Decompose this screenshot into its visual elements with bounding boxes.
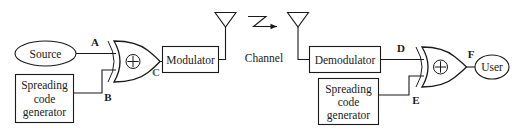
- rx-spreading-code-generator: Spreading code generator: [319, 79, 379, 125]
- node-label-c: C: [152, 66, 160, 78]
- rx-antenna-triangle: [288, 13, 309, 28]
- rx-xor-gate: [416, 47, 467, 87]
- rx-spreading-label-line2: code: [338, 96, 360, 108]
- modulator-label: Modulator: [166, 54, 215, 66]
- modulator-block: Modulator: [163, 47, 219, 73]
- source-label: Source: [30, 48, 62, 60]
- tx-spreading-label-line1: Spreading: [21, 79, 68, 92]
- node-label-f: F: [468, 48, 475, 60]
- spread-spectrum-block-diagram: Source A Spreading code generator B C Mo…: [0, 0, 512, 134]
- transmit-antenna-icon: [215, 13, 236, 28]
- diagram-canvas: Source A Spreading code generator B C Mo…: [0, 0, 512, 134]
- rx-spreading-label-line3: generator: [327, 109, 371, 122]
- source-node: Source: [15, 41, 76, 66]
- user-node: User: [475, 55, 509, 79]
- tx-spreading-label-line2: code: [34, 93, 56, 105]
- wire-antenna-to-demodulator: [298, 27, 309, 60]
- demodulator-block: Demodulator: [310, 47, 381, 73]
- user-label: User: [481, 61, 503, 73]
- wire-tx-spreading-to-xor: [74, 70, 117, 93]
- node-label-b: B: [104, 91, 112, 103]
- rx-xor-back-arc: [416, 47, 422, 87]
- tx-antenna-triangle: [215, 13, 236, 28]
- receive-antenna-icon: [288, 13, 309, 28]
- channel-zigzag: [248, 17, 268, 27]
- channel-arrow-head: [271, 24, 278, 29]
- tx-xor-back-arc: [108, 41, 114, 82]
- tx-spreading-label-line3: generator: [23, 106, 67, 119]
- channel-propagation-icon: [248, 17, 277, 30]
- node-label-a: A: [91, 36, 99, 48]
- rx-spreading-label-line1: Spreading: [325, 83, 372, 96]
- node-label-d: D: [397, 42, 405, 54]
- tx-spreading-code-generator: Spreading code generator: [16, 75, 74, 123]
- wire-modulator-to-antenna: [219, 27, 226, 60]
- node-label-e: E: [412, 94, 419, 106]
- demodulator-label: Demodulator: [315, 54, 376, 66]
- channel-label: Channel: [245, 52, 283, 64]
